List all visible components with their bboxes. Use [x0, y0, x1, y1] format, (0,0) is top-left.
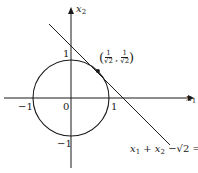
diagram: x2 x1 0 1 −1 1 −1 (1√2,1√2) x1 + x2 −√2 …: [0, 0, 198, 173]
tangent-line: [49, 24, 170, 145]
tangent-point: [96, 69, 100, 73]
origin-label: 0: [63, 102, 69, 112]
y-axis-label: x2: [76, 4, 86, 17]
x-tick-neg1: −1: [18, 102, 33, 112]
tangent-point-label: (1√2,1√2): [99, 50, 134, 65]
y-tick-1: 1: [63, 49, 69, 59]
tangent-equation: x1 + x2 −√2 = 0: [130, 144, 198, 157]
y-tick-neg1: −1: [57, 139, 72, 149]
x-axis-label: x1: [186, 93, 196, 106]
y-axis-arrow-icon: [68, 7, 74, 14]
x-tick-1: 1: [111, 102, 117, 112]
